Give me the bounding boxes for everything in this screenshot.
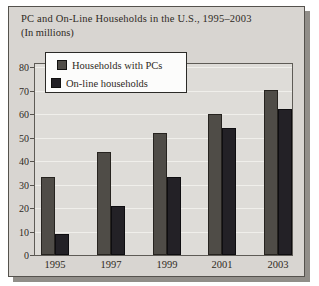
y-tick-label-50: 50: [9, 133, 29, 144]
x-tick-label-1997: 1997: [91, 259, 131, 270]
bar-pcs-2003: [264, 90, 278, 255]
y-tick-40: [30, 161, 34, 162]
y-tick-label-70: 70: [9, 86, 29, 97]
chart-subtitle: (In millions): [21, 27, 74, 38]
y-tick-label-80: 80: [9, 62, 29, 73]
y-tick-label-40: 40: [9, 156, 29, 167]
y-tick-label-20: 20: [9, 203, 29, 214]
y-tick-80: [30, 67, 34, 68]
bar-online-1997: [111, 206, 125, 255]
bar-pcs-2001: [208, 114, 222, 255]
bar-online-1995: [55, 234, 69, 255]
bar-online-2001: [222, 128, 236, 255]
x-tick-label-2003: 2003: [258, 259, 298, 270]
legend-swatch-online: [51, 78, 61, 88]
y-tick-label-10: 10: [9, 227, 29, 238]
x-tick-label-2001: 2001: [202, 259, 242, 270]
y-tick-30: [30, 185, 34, 186]
chart-panel: PC and On-Line Households in the U.S., 1…: [8, 6, 305, 277]
y-tick-label-0: 0: [9, 250, 29, 261]
y-tick-10: [30, 232, 34, 233]
y-tick-0: [30, 255, 34, 256]
bar-pcs-1997: [97, 152, 111, 255]
y-tick-50: [30, 138, 34, 139]
y-tick-20: [30, 208, 34, 209]
bar-online-1999: [167, 177, 181, 255]
x-tick-label-1999: 1999: [147, 259, 187, 270]
y-tick-label-60: 60: [9, 109, 29, 120]
legend-label-pcs: Households with PCs: [72, 60, 162, 71]
x-tick-label-1995: 1995: [35, 259, 75, 270]
bar-online-2003: [278, 109, 292, 255]
bar-pcs-1995: [41, 177, 55, 255]
chart-title: PC and On-Line Households in the U.S., 1…: [21, 13, 252, 24]
y-tick-70: [30, 91, 34, 92]
legend-item-pcs: Households with PCs: [46, 56, 186, 74]
legend: Households with PCs On-line households: [45, 52, 187, 93]
gridline-60: [35, 114, 292, 115]
bar-pcs-1999: [153, 133, 167, 255]
legend-swatch-pcs: [57, 60, 67, 70]
legend-item-online: On-line households: [46, 74, 186, 92]
y-tick-60: [30, 114, 34, 115]
legend-label-online: On-line households: [66, 78, 148, 89]
y-tick-label-30: 30: [9, 180, 29, 191]
